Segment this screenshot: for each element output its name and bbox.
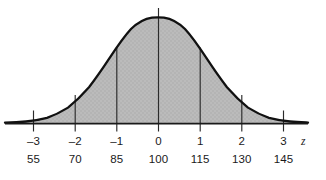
normal-distribution-figure: –3 –2 –1 0 1 2 3 z 55 70 85 100 115 130 … [0,0,326,180]
bell-curve-plot [0,0,326,180]
curve-area-fill [5,17,308,123]
